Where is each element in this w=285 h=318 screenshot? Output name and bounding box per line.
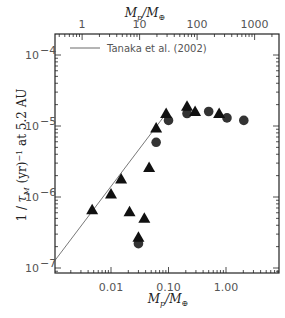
plot-frame [55, 34, 279, 273]
triangle-marker [105, 188, 117, 199]
tick-labels: 0.010.101.00110100100010−710−610−510−4 [25, 18, 269, 294]
triangle-marker [150, 122, 162, 133]
x-axis-bottom-title: Mp/M⊕ [147, 292, 188, 308]
triangle-marker [213, 107, 225, 118]
y-tick-label: 10 [25, 49, 39, 62]
triangle-marker [181, 100, 193, 111]
circle-marker [239, 116, 249, 126]
model-line [54, 113, 167, 262]
x-top-tick-label: 1 [79, 18, 86, 31]
triangle-marker [143, 162, 155, 173]
y-tick-exponent: −5 [40, 115, 56, 128]
y-tick-exponent: −4 [40, 44, 56, 57]
x-axis-top-title: Mp/M⊕ [124, 6, 165, 22]
axis-ticks [55, 34, 279, 273]
y-tick-exponent: −7 [40, 257, 56, 270]
y-tick-exponent: −6 [40, 186, 56, 199]
triangle-marker [138, 212, 150, 223]
x-top-tick-label: 1000 [241, 18, 269, 31]
x-tick-label: 1.00 [214, 281, 239, 294]
x-top-tick-label: 100 [187, 18, 208, 31]
circle-marker [151, 137, 161, 147]
legend: Tanaka et al. (2002) [70, 43, 207, 54]
triangle-marker [160, 107, 172, 118]
chart: 0.010.101.00110100100010−710−610−510−4 T… [0, 0, 285, 318]
x-tick-label: 0.01 [99, 281, 124, 294]
data-series [54, 100, 249, 262]
circle-marker [204, 107, 214, 117]
y-axis-title: 1 / τM (yr)−1 at 5.2 AU [15, 89, 31, 222]
triangle-marker [124, 206, 136, 217]
legend-label: Tanaka et al. (2002) [106, 43, 207, 54]
y-tick-label: 10 [25, 262, 39, 275]
triangle-marker [132, 231, 144, 242]
